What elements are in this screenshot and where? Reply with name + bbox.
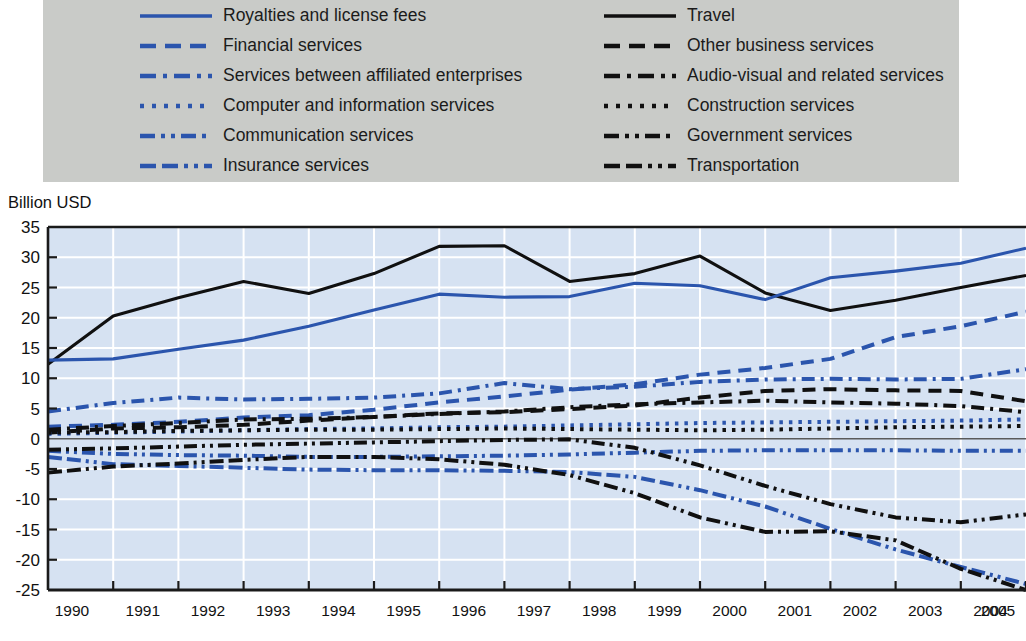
x-tick-label: 2005 [981,602,1015,619]
x-tick-label: 2001 [778,602,812,619]
legend-line-swatch-icon [140,159,212,173]
y-tick-label: 30 [21,248,40,267]
legend-item-left-1[interactable]: Financial services [140,32,522,60]
y-tick-label: -20 [15,551,40,570]
legend-line-swatch-icon [140,39,212,53]
legend-line-swatch-icon [140,69,212,83]
legend-item-left-3[interactable]: Computer and information services [140,92,522,120]
y-tick-label: 20 [21,309,40,328]
x-tick-label: 1996 [452,602,486,619]
legend-item-label: Royalties and license fees [223,7,426,25]
x-tick-label: 1991 [126,602,160,619]
y-tick-label: 35 [21,218,40,237]
legend-item-label: Insurance services [223,157,369,175]
y-tick-label: 0 [31,430,40,449]
legend-column-left: Royalties and license feesFinancial serv… [140,0,522,180]
y-tick-label: -5 [25,460,40,479]
legend-item-label: Other business services [687,37,874,55]
legend-item-label: Communication services [223,127,414,145]
legend-item-left-2[interactable]: Services between affiliated enterprises [140,62,522,90]
x-tick-label: 1990 [55,602,90,619]
legend-line-swatch-icon [604,99,676,113]
legend-line-swatch-icon [140,99,212,113]
legend-line-swatch-icon [604,39,676,53]
x-tick-label: 1995 [386,602,420,619]
legend-item-right-0[interactable]: Travel [604,2,944,30]
line-chart: 35302520151050-5-10-15-20-25199019911992… [0,214,1026,641]
legend-line-swatch-icon [604,69,676,83]
legend-line-swatch-icon [140,129,212,143]
x-tick-label: 2000 [712,602,747,619]
legend-item-left-5[interactable]: Insurance services [140,152,522,180]
legend-item-right-2[interactable]: Audio-visual and related services [604,62,944,90]
legend-line-swatch-icon [604,9,676,23]
y-tick-label: 5 [31,400,40,419]
legend-column-right: TravelOther business servicesAudio-visua… [604,0,944,180]
x-tick-label: 1994 [321,602,356,619]
x-tick-label: 1997 [517,602,551,619]
x-tick-label: 2002 [843,602,877,619]
legend-item-label: Travel [687,7,735,25]
legend-item-right-4[interactable]: Government services [604,122,944,150]
legend-line-swatch-icon [604,159,676,173]
legend-item-left-0[interactable]: Royalties and license fees [140,2,522,30]
chart-canvas: 35302520151050-5-10-15-20-25199019911992… [0,214,1026,641]
legend-item-right-3[interactable]: Construction services [604,92,944,120]
y-axis-title: Billion USD [8,193,91,212]
y-tick-label: -25 [15,581,40,600]
legend-panel: Royalties and license feesFinancial serv… [43,0,959,182]
legend-item-left-4[interactable]: Communication services [140,122,522,150]
legend-line-swatch-icon [140,9,212,23]
legend-item-label: Construction services [687,97,854,115]
legend-item-right-5[interactable]: Transportation [604,152,944,180]
x-tick-label: 1993 [256,602,290,619]
y-tick-label: -15 [15,521,40,540]
y-tick-label: -10 [15,490,40,509]
y-tick-label: 15 [21,339,40,358]
legend-item-label: Financial services [223,37,362,55]
x-tick-label: 1999 [647,602,681,619]
legend-line-swatch-icon [604,129,676,143]
legend-item-label: Audio-visual and related services [687,67,944,85]
x-tick-label: 2003 [908,602,942,619]
x-tick-label: 1992 [191,602,225,619]
x-tick-label: 1998 [582,602,616,619]
legend-item-label: Government services [687,127,852,145]
legend-item-label: Services between affiliated enterprises [223,67,522,85]
y-tick-label: 10 [21,369,40,388]
legend-item-right-1[interactable]: Other business services [604,32,944,60]
y-tick-label: 25 [21,279,40,298]
legend-item-label: Transportation [687,157,799,175]
legend-item-label: Computer and information services [223,97,494,115]
